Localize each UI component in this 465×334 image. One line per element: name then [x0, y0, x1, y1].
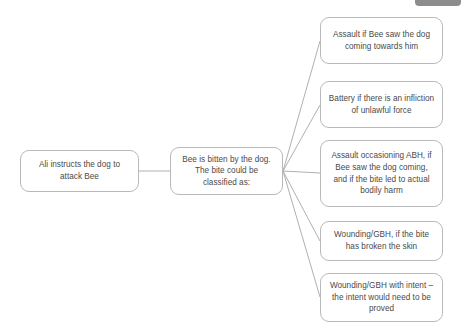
partial-toolbar-bar[interactable] — [415, 0, 461, 6]
node-cause[interactable]: Ali instructs the dog to attack Bee — [20, 150, 139, 192]
node-event-label: Bee is bitten by the dog. The bite could… — [178, 154, 275, 189]
node-outcome-gbh-intent[interactable]: Wounding/GBH with intent – the intent wo… — [320, 273, 443, 322]
node-outcome-gbh-intent-label: Wounding/GBH with intent – the intent wo… — [328, 280, 435, 315]
node-outcome-gbh-label: Wounding/GBH, if the bite has broken the… — [328, 229, 435, 252]
edge-event-to-outcome-battery — [283, 105, 320, 171]
node-event[interactable]: Bee is bitten by the dog. The bite could… — [170, 147, 283, 195]
node-outcome-battery-label: Battery if there is an infliction of unl… — [328, 93, 435, 116]
node-outcome-battery[interactable]: Battery if there is an infliction of unl… — [320, 81, 443, 128]
flowchart-canvas: Ali instructs the dog to attack Bee Bee … — [0, 0, 465, 334]
edge-event-to-outcome-abh — [283, 171, 320, 173]
node-cause-label: Ali instructs the dog to attack Bee — [28, 159, 131, 182]
node-outcome-assault[interactable]: Assault if Bee saw the dog coming toward… — [320, 17, 443, 64]
node-outcome-abh-label: Assault occasioning ABH, if Bee saw the … — [328, 150, 435, 197]
node-outcome-abh[interactable]: Assault occasioning ABH, if Bee saw the … — [320, 140, 443, 207]
node-outcome-gbh[interactable]: Wounding/GBH, if the bite has broken the… — [320, 221, 443, 261]
node-outcome-assault-label: Assault if Bee saw the dog coming toward… — [328, 29, 435, 52]
edge-event-to-outcome-assault — [283, 41, 320, 171]
edge-event-to-outcome-gbh-intent — [283, 171, 320, 297]
edge-event-to-outcome-gbh — [283, 171, 320, 241]
